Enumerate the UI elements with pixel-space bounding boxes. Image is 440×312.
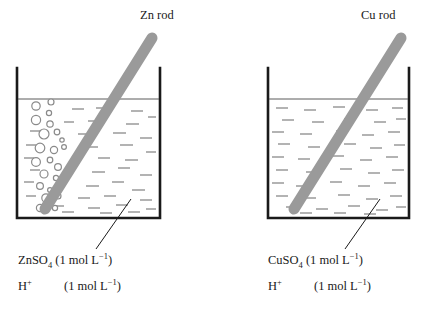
left-acid-conc-close: ) xyxy=(117,279,121,293)
left-salt-subscript: 4 xyxy=(48,260,52,270)
right-acid-conc: (1 mol L xyxy=(314,279,358,294)
right-acid-formula: H xyxy=(268,279,277,293)
right-acid-label: H+(1 mol L−1) xyxy=(268,279,371,294)
right-salt-conc-exponent: −1 xyxy=(350,251,359,261)
left-salt-formula: ZnSO xyxy=(18,253,48,267)
zinc-rod-label: Zn rod xyxy=(140,8,174,23)
left-salt-label: ZnSO4 (1 mol L−1) xyxy=(18,253,112,268)
left-salt-conc: (1 mol L xyxy=(55,253,99,268)
right-beaker-group xyxy=(268,38,409,249)
left-salt-conc-close: ) xyxy=(108,253,112,267)
left-leader-line xyxy=(96,199,131,249)
left-acid-conc-exponent: −1 xyxy=(108,277,117,287)
right-salt-label: CuSO4 (1 mol L−1) xyxy=(268,253,363,268)
copper-rod-label: Cu rod xyxy=(361,8,395,23)
left-acid-charge: + xyxy=(27,277,32,287)
left-beaker-group xyxy=(17,38,160,249)
left-acid-formula: H xyxy=(18,279,27,293)
right-salt-conc: (1 mol L xyxy=(306,253,350,268)
right-solution-dashes xyxy=(272,107,406,214)
right-acid-conc-exponent: −1 xyxy=(358,277,367,287)
right-salt-subscript: 4 xyxy=(299,260,303,270)
left-acid-label: H+(1 mol L−1) xyxy=(18,279,121,294)
right-acid-conc-close: ) xyxy=(367,279,371,293)
right-acid-charge: + xyxy=(277,277,282,287)
left-acid-conc: (1 mol L xyxy=(64,279,108,294)
left-acid-wrap: H+ xyxy=(18,279,64,294)
right-acid-wrap: H+ xyxy=(268,279,314,294)
right-salt-conc-close: ) xyxy=(359,253,363,267)
left-salt-conc-exponent: −1 xyxy=(99,251,108,261)
right-salt-formula: CuSO xyxy=(268,253,299,267)
